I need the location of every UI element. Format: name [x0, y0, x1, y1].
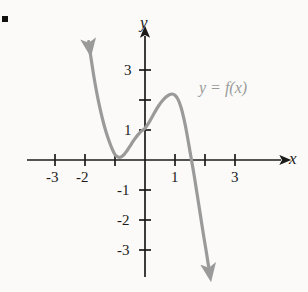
x-tick-label-3: 3	[231, 170, 239, 185]
x-axis-label: x	[289, 150, 297, 167]
function-annotation-label: y = f(x)	[199, 80, 247, 96]
x-tick-label-1: 1	[171, 170, 179, 185]
y-tick-label-neg2: -2	[117, 213, 130, 228]
x-tick-label-neg2: -2	[76, 170, 89, 185]
y-tick-label-neg1: -1	[117, 183, 130, 198]
y-tick-label-3: 3	[124, 63, 132, 78]
y-tick-label-neg3: -3	[117, 243, 130, 258]
x-tick-label-neg3: -3	[46, 170, 59, 185]
y-axis-label: y	[140, 14, 148, 31]
coordinate-plot	[0, 0, 308, 292]
y-tick-label-1: 1	[124, 123, 132, 138]
figure-canvas: x y -3 -2 1 3 3 1 -1 -2 -3 y = f(x)	[0, 0, 308, 292]
axes	[27, 36, 281, 277]
function-curve	[89, 42, 209, 267]
